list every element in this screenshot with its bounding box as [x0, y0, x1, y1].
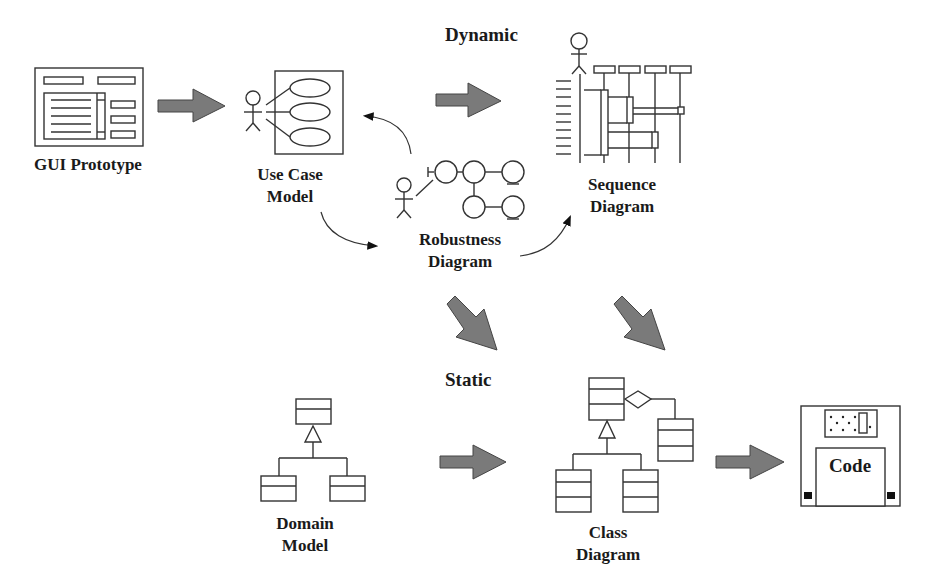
- use-case-icon: [266, 71, 343, 154]
- section-dynamic-label: Dynamic: [445, 24, 518, 45]
- class-diagram-icon: [556, 378, 693, 512]
- block-arrow-icon: [716, 445, 784, 479]
- code-label: Code: [829, 455, 871, 476]
- use-case-model-node: Use Case Model: [244, 71, 343, 206]
- class-hierarchy-icon: [261, 399, 365, 501]
- class-diagram-node: Class Diagram: [556, 378, 693, 564]
- sequence-diagram-node: Sequence Diagram: [556, 33, 691, 216]
- curved-arrow-icon: [365, 116, 411, 154]
- robustness-diagram-label-2: Diagram: [428, 252, 492, 271]
- gui-window-icon: [35, 68, 143, 146]
- robustness-objects-icon: [416, 161, 524, 219]
- block-arrow-icon: [447, 296, 497, 350]
- domain-model-label-2: Model: [282, 536, 329, 555]
- class-diagram-label-1: Class: [589, 523, 628, 542]
- use-case-model-label-2: Model: [267, 187, 314, 206]
- block-arrow-icon: [614, 296, 665, 350]
- block-arrow-icon: [436, 83, 501, 117]
- block-arrow-icon: [158, 89, 225, 122]
- domain-model-node: Domain Model: [261, 399, 365, 555]
- domain-model-label-1: Domain: [276, 514, 334, 533]
- actor-icon: [395, 178, 413, 218]
- code-node: Code: [801, 406, 900, 506]
- actor-icon: [244, 91, 262, 131]
- sequence-diagram-label-1: Sequence: [588, 175, 656, 194]
- curved-arrow-icon: [520, 217, 570, 256]
- gui-prototype-node: GUI Prototype: [34, 68, 143, 174]
- gui-prototype-label: GUI Prototype: [34, 155, 142, 174]
- robustness-diagram-node: Robustness Diagram: [395, 161, 524, 271]
- class-diagram-label-2: Diagram: [576, 545, 640, 564]
- section-static-label: Static: [445, 369, 491, 390]
- sequence-diagram-icon: [556, 33, 691, 163]
- use-case-model-label-1: Use Case: [257, 165, 323, 184]
- sequence-diagram-label-2: Diagram: [590, 197, 654, 216]
- block-arrow-icon: [440, 445, 506, 479]
- robustness-diagram-label-1: Robustness: [419, 230, 502, 249]
- curved-arrow-icon: [321, 212, 376, 246]
